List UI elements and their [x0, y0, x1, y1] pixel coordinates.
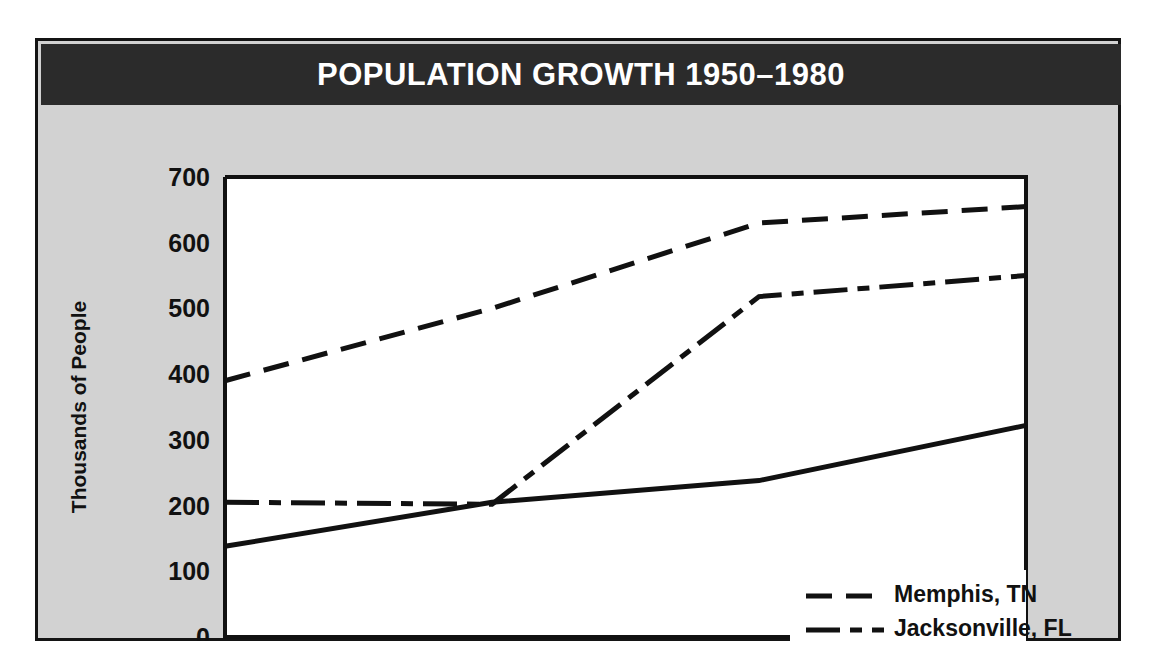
- y-tick-label: 500: [168, 294, 210, 322]
- plot-area: 0100200300400500600700 1950196019701980 …: [38, 105, 1118, 641]
- y-tick-label: 200: [168, 492, 210, 520]
- chart-legend: Memphis, TNJacksonville, FLCharlotte, NC: [790, 570, 1072, 641]
- y-tick-label: 0: [196, 623, 210, 641]
- y-axis-title: Thousands of People: [67, 301, 90, 513]
- y-axis-ticks: 0100200300400500600700: [168, 163, 210, 641]
- line-chart-svg: 0100200300400500600700 1950196019701980 …: [38, 105, 1118, 641]
- plot-canvas: [225, 177, 1026, 637]
- chart-title-band: POPULATION GROWTH 1950–1980: [41, 44, 1121, 105]
- y-tick-label: 600: [168, 229, 210, 257]
- legend-label-1: Jacksonville, FL: [894, 615, 1072, 641]
- y-tick-label: 100: [168, 557, 210, 585]
- chart-figure: POPULATION GROWTH 1950–1980 010020030040…: [35, 38, 1121, 641]
- y-tick-label: 300: [168, 426, 210, 454]
- y-tick-label: 400: [168, 360, 210, 388]
- page-title: POPULATION GROWTH 1950–1980: [317, 57, 845, 93]
- y-tick-label: 700: [168, 163, 210, 191]
- legend-label-0: Memphis, TN: [894, 581, 1037, 607]
